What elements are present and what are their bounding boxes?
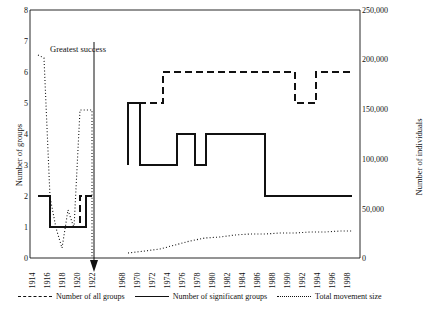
x-tick-1974: 1974	[163, 266, 172, 296]
chart-legend: Number of all groups Number of significa…	[18, 292, 418, 301]
series-significant-groups-early	[38, 196, 92, 227]
legend-label-total-movement-size: Total movement size	[315, 292, 382, 301]
x-tick-1984: 1984	[238, 266, 247, 296]
x-tick-1978: 1978	[193, 266, 202, 296]
x-tick-1918: 1918	[58, 266, 67, 296]
x-tick-1920: 1920	[73, 266, 82, 296]
legend-item-significant-groups: Number of significant groups	[135, 292, 267, 301]
x-tick-1976: 1976	[178, 266, 187, 296]
x-tick-1994: 1994	[313, 266, 322, 296]
x-tick-1914: 1914	[28, 266, 37, 296]
legend-label-all-groups: Number of all groups	[56, 292, 125, 301]
legend-label-significant-groups: Number of significant groups	[173, 292, 267, 301]
legend-dashed-line-icon	[18, 293, 52, 300]
x-tick-1922: 1922	[88, 266, 97, 296]
x-tick-1998: 1998	[343, 266, 352, 296]
chart-container: Number of groups Number of individuals 8…	[0, 0, 429, 315]
x-tick-1992: 1992	[298, 266, 307, 296]
x-tick-1986: 1986	[253, 266, 262, 296]
x-tick-1916: 1916	[43, 266, 52, 296]
legend-solid-line-icon	[135, 293, 169, 300]
x-tick-1968: 1968	[118, 266, 127, 296]
series-all-groups-modern	[128, 72, 352, 103]
x-tick-1990: 1990	[283, 266, 292, 296]
legend-item-total-movement-size: Total movement size	[277, 292, 382, 301]
series-total-movement-size-modern	[128, 231, 352, 253]
greatest-success-marker	[90, 42, 98, 272]
x-tick-1980: 1980	[208, 266, 217, 296]
x-tick-1970: 1970	[133, 266, 142, 296]
x-tick-1982: 1982	[223, 266, 232, 296]
series-all-groups-early	[38, 196, 92, 227]
x-tick-1996: 1996	[328, 266, 337, 296]
legend-item-all-groups: Number of all groups	[18, 292, 125, 301]
series-significant-groups-modern	[128, 103, 352, 196]
legend-dotted-line-icon	[277, 293, 311, 300]
x-tick-1988: 1988	[268, 266, 277, 296]
x-tick-1972: 1972	[148, 266, 157, 296]
